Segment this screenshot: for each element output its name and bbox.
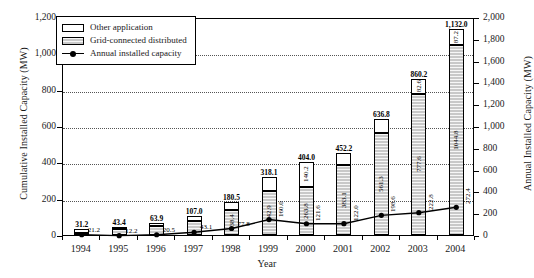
y-axis-left-tick-mark	[57, 91, 62, 92]
legend-item-line: Annual installed capacity	[62, 47, 187, 60]
y-axis-right-tick-label: 800	[483, 144, 529, 154]
x-axis-tick-mark	[287, 236, 288, 240]
x-axis-tick-mark	[399, 236, 400, 240]
y-axis-right-tick-label: 1,400	[483, 78, 529, 88]
y-axis-left-tick-label: 1,000	[10, 49, 56, 59]
y-axis-right-tick-label: 2,000	[483, 13, 529, 23]
annual-capacity-value-label: 121.6	[315, 205, 322, 221]
x-axis-tick-mark	[249, 236, 250, 240]
annual-capacity-value-label: 12.2	[125, 228, 137, 235]
y-axis-right-tick-label: 1,800	[483, 35, 529, 45]
chart-figure: Cumulative Installed Capacity (MW) Annua…	[0, 0, 534, 278]
legend-item-label: Annual installed capacity	[90, 49, 181, 58]
y-axis-left-tick-label: 400	[10, 158, 56, 168]
annual-capacity-value-label: 43.1	[200, 224, 212, 231]
y-axis-right-tick-mark	[474, 40, 479, 41]
y-axis-left-tick-label: 0	[10, 231, 56, 241]
annual-capacity-value-label: 21.2	[88, 227, 100, 234]
annual-capacity-value-label: 122.0	[353, 205, 360, 221]
y-axis-right-tick-label: 1,200	[483, 100, 529, 110]
annual-capacity-value-label: 77.8	[238, 221, 250, 228]
y-axis-left-tick-mark	[57, 200, 62, 201]
annual-capacity-value-label: 20.5	[163, 227, 175, 234]
y-axis-right-tick-mark	[474, 149, 479, 150]
y-axis-right-tick-mark	[474, 18, 479, 19]
y-axis-right-tick-label: 600	[483, 166, 529, 176]
y-axis-right-tick-label: 200	[483, 209, 529, 219]
legend-swatch-other-icon	[62, 24, 84, 32]
y-axis-right-tick-mark	[474, 171, 479, 172]
y-axis-left-tick-label: 600	[10, 122, 56, 132]
y-axis-left-tick-label: 200	[10, 195, 56, 205]
y-axis-right-tick-mark	[474, 127, 479, 128]
legend-item-other: Other application	[62, 21, 187, 34]
x-axis-tick-mark	[437, 236, 438, 240]
legend-item-grid: Grid-connected distributed	[62, 34, 187, 47]
y-axis-right-tick-mark	[474, 62, 479, 63]
y-axis-right-tick-label: 1,600	[483, 57, 529, 67]
y-axis-right-tick-mark	[474, 192, 479, 193]
x-axis-title: Year	[0, 258, 534, 269]
annual-capacity-value-label: 272.4	[465, 189, 472, 205]
legend-swatch-grid-icon	[62, 37, 84, 45]
y-axis-left-tick-label: 1,200	[10, 13, 56, 23]
y-axis-right-tick-label: 400	[483, 187, 529, 197]
y-axis-right-tick-label: 0	[483, 231, 529, 241]
legend-item-label: Grid-connected distributed	[90, 36, 187, 45]
y-axis-left-tick-mark	[57, 163, 62, 164]
x-axis-tick-mark	[174, 236, 175, 240]
legend-swatch-line-icon	[62, 50, 84, 58]
x-axis-tick-mark	[99, 236, 100, 240]
x-axis-tick-mark	[324, 236, 325, 240]
annual-capacity-value-label: 160.0	[278, 201, 285, 217]
x-axis-tick-mark	[212, 236, 213, 240]
y-axis-right-tick-mark	[474, 83, 479, 84]
chart-legend: Other applicationGrid-connected distribu…	[56, 16, 196, 65]
x-axis-tick-mark	[474, 236, 475, 240]
x-axis-tick-label: 2004	[432, 244, 478, 254]
x-axis-tick-mark	[137, 236, 138, 240]
y-axis-right-tick-mark	[474, 214, 479, 215]
legend-item-label: Other application	[90, 23, 153, 32]
y-axis-left-tick-mark	[57, 127, 62, 128]
y-axis-left-tick-label: 800	[10, 86, 56, 96]
x-axis-tick-mark	[362, 236, 363, 240]
y-axis-right-tick-mark	[474, 105, 479, 106]
y-axis-right-tick-label: 1,000	[483, 122, 529, 132]
annual-capacity-value-label: 222.8	[428, 194, 435, 210]
x-axis-tick-mark	[62, 236, 63, 240]
annual-capacity-value-label: 198.6	[390, 197, 397, 213]
